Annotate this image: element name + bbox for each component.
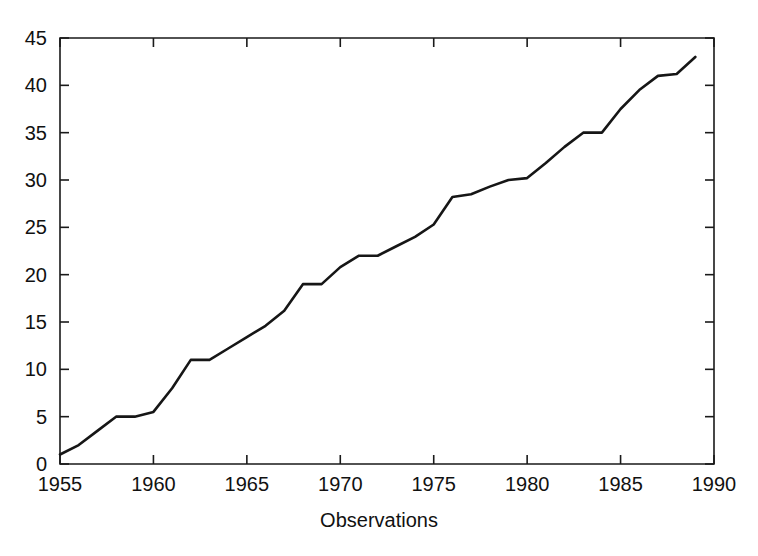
x-tick-label: 1960 [131,473,176,495]
x-tick-label: 1980 [505,473,550,495]
x-tick-label: 1975 [411,473,456,495]
y-axis-tick-labels: 051015202530354045 [25,27,47,475]
x-tick-label: 1970 [318,473,363,495]
x-tick-label: 1965 [225,473,270,495]
y-tick-label: 5 [36,406,47,428]
y-tick-label: 25 [25,216,47,238]
data-series-line [60,57,695,455]
y-tick-label: 10 [25,358,47,380]
y-tick-label: 30 [25,169,47,191]
x-tick-label: 1985 [598,473,643,495]
line-chart: 051015202530354045 195519601965197019751… [0,0,758,556]
x-tick-label: 1990 [692,473,737,495]
x-tick-label: 1955 [38,473,83,495]
y-tick-label: 15 [25,311,47,333]
y-tick-label: 40 [25,74,47,96]
y-tick-label: 35 [25,122,47,144]
x-axis-title: Observations [320,509,438,531]
y-tick-label: 0 [36,453,47,475]
y-tick-label: 20 [25,264,47,286]
chart-figure: 051015202530354045 195519601965197019751… [0,0,758,556]
y-tick-label: 45 [25,27,47,49]
x-axis-tick-labels: 19551960196519701975198019851990 [38,473,737,495]
